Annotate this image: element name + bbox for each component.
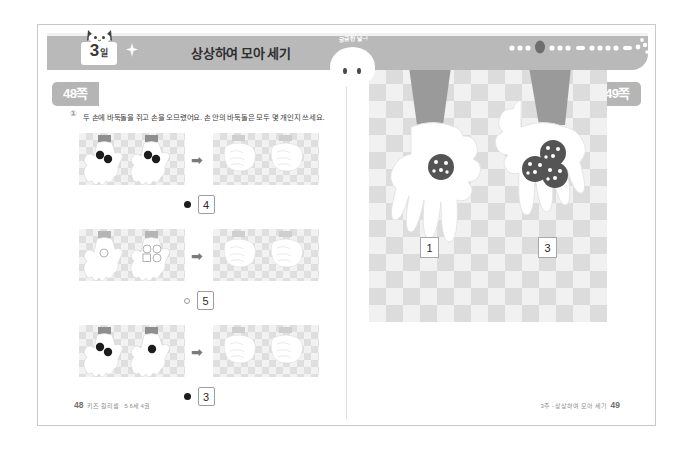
stone-marker-3 [184, 393, 191, 400]
answer-box-2[interactable]: 5 [197, 291, 214, 310]
open-hands-panel-1 [79, 133, 185, 185]
closed-fists-panel-1 [213, 133, 319, 185]
mascot-character [330, 47, 375, 87]
day-badge: 3 일 [81, 42, 117, 65]
day-unit: 일 [100, 46, 108, 59]
open-hands-panel-3 [79, 325, 185, 377]
answer-line-1: 4 [79, 195, 319, 214]
page-title: 상상하여 모아 세기 [146, 43, 336, 62]
stone-marker-1 [184, 201, 191, 208]
answer-box-3[interactable]: 3 [198, 387, 215, 406]
answer-box-1[interactable]: 4 [198, 195, 215, 214]
footer-text-right: 3주 - 상상하여 모아 세기 [541, 401, 607, 410]
arrow-icon-3: ➡ [191, 344, 203, 360]
footer-text-left: 키즈 원리셈 · 5 6세 4권 [87, 401, 149, 410]
answer-box-left-hand[interactable]: 1 [420, 237, 439, 258]
instruction-left: 두 손에 바둑돌을 쥐고 손을 오므렸어요. 손 안의 바둑돌은 모두 몇 개인… [83, 111, 324, 122]
dotted-ribbon-icon [508, 37, 648, 59]
answer-line-2: 5 [79, 291, 319, 310]
closed-fists-panel-3 [213, 325, 319, 377]
question-marker-left: ① [70, 109, 77, 118]
mascot-eye-right [357, 68, 361, 74]
open-hands-panel-2 [79, 229, 185, 281]
mascot-eye-left [343, 68, 347, 74]
page-right: ② 두 손에는 사탕이 각각 몇 개 있나요? [347, 33, 647, 419]
pages-container: ① 두 손에 바둑돌을 쥐고 손을 오므렸어요. 손 안의 바둑돌은 모두 몇 … [47, 33, 648, 419]
day-number: 3 [90, 42, 99, 59]
page-number-left: 48 [74, 400, 83, 410]
sparkle-icon [126, 43, 138, 57]
arrow-icon-1: ➡ [191, 152, 203, 168]
answer-box-right-hand[interactable]: 3 [538, 237, 557, 258]
candy-group-left [428, 154, 454, 180]
page-number-right: 49 [611, 400, 620, 410]
page-left: ① 두 손에 바둑돌을 쥐고 손을 오므렸어요. 손 안의 바둑돌은 모두 몇 … [47, 33, 347, 419]
candy-hands-picture: 1 3 [369, 67, 607, 322]
footer-left: 48 키즈 원리셈 · 5 6세 4권 [74, 400, 150, 410]
workbook-spread: 48쪽 49쪽 ① 두 손에 바둑돌을 쥐고 손을 오므렸어요. 손 안의 바둑… [37, 24, 656, 426]
arrow-icon-2: ➡ [191, 248, 203, 264]
footer-right: 3주 - 상상하여 모아 세기 49 [541, 400, 620, 410]
closed-fists-panel-2 [213, 229, 319, 281]
stone-marker-2 [184, 298, 190, 304]
